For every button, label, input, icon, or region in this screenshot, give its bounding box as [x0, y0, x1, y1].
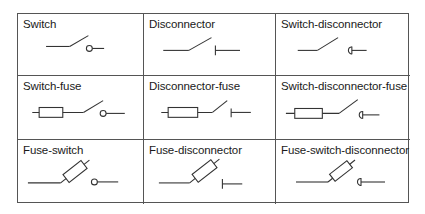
cell-fuse-disconnector: Fuse-disconnector [144, 140, 276, 204]
cell-switch: Switch [18, 14, 144, 76]
fuse-switch-icon [18, 140, 143, 204]
cell-fuse-switch-disconnector: Fuse-switch-disconnector [276, 140, 410, 204]
fuse-disconnector-icon [144, 140, 275, 204]
switch-disconnector-icon [276, 14, 410, 75]
switch-icon [18, 14, 143, 75]
disconnector-icon [144, 14, 275, 75]
disconnector-fuse-icon [144, 76, 275, 139]
symbol-table: Switch Disconnector Switch-disconnector [17, 13, 409, 203]
cell-disconnector: Disconnector [144, 14, 276, 76]
cell-disconnector-fuse: Disconnector-fuse [144, 76, 276, 140]
cell-switch-fuse: Switch-fuse [18, 76, 144, 140]
switch-disconnector-fuse-icon [276, 76, 410, 139]
fuse-switch-disconnector-icon [276, 140, 410, 204]
cell-switch-disconnector-fuse: Switch-disconnector-fuse [276, 76, 410, 140]
cell-switch-disconnector: Switch-disconnector [276, 14, 410, 76]
cell-fuse-switch: Fuse-switch [18, 140, 144, 204]
switch-fuse-icon [18, 76, 143, 139]
